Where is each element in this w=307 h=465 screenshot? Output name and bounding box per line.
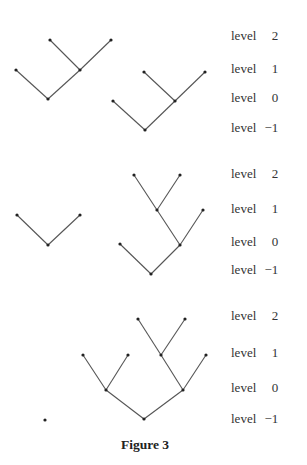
level-label: level1 [231,201,278,217]
tree-1-0 [15,213,81,246]
tree-edge [16,70,48,99]
tree-edge [17,215,48,245]
tree-node [132,173,135,176]
tree-node [142,417,145,420]
level-value: 2 [256,28,278,44]
level-word: level [231,61,256,76]
tree-edge [48,70,80,99]
level-value: 1 [256,201,278,217]
tree-0-1 [111,70,206,131]
tree-node [15,213,18,216]
tree-node [126,353,129,356]
tree-edge [83,355,106,390]
tree-node [204,353,207,356]
tree-edge [175,72,205,101]
tree-edge [180,210,203,245]
level-value: −1 [256,120,278,136]
level-word: level [231,234,256,249]
level-label: level−1 [231,262,278,278]
tree-node [118,242,121,245]
level-label: level2 [231,166,278,182]
level-value: −1 [256,262,278,278]
tree-edge [145,101,175,130]
level-word: level [231,380,256,395]
tree-edge [106,355,128,390]
tree-node [136,317,139,320]
tree-edge [134,175,157,210]
level-value: 1 [256,61,278,77]
level-word: level [231,201,256,216]
level-word: level [231,28,256,43]
level-value: 2 [256,308,278,324]
level-value: 2 [256,166,278,182]
tree-edge [161,355,183,390]
level-label: level1 [231,345,278,361]
tree-edge [120,244,151,274]
level-word: level [231,120,256,135]
level-label: level1 [231,61,278,77]
tree-node [201,208,204,211]
level-value: 1 [256,345,278,361]
tree-node [143,128,146,131]
tree-node [109,38,112,41]
level-label: level2 [231,28,278,44]
tree-edge [50,40,80,70]
tree-node [46,243,49,246]
level-word: level [231,308,256,323]
tree-node [155,208,158,211]
tree-edge [144,390,183,419]
tree-2-1 [81,317,207,420]
tree-node [142,70,145,73]
level-word: level [231,345,256,360]
tree-edge [183,355,206,390]
level-word: level [231,262,256,277]
tree-edge [106,390,144,419]
tree-edge [80,40,111,70]
tree-node [181,388,184,391]
level-label: level0 [231,90,278,106]
level-word: level [231,90,256,105]
level-value: 0 [256,234,278,250]
tree-node [78,213,81,216]
level-label: level−1 [231,411,278,427]
level-word: level [231,411,256,426]
tree-node [149,272,152,275]
tree-node [81,353,84,356]
level-value: −1 [256,411,278,427]
tree-node [46,97,49,100]
level-label: level−1 [231,120,278,136]
tree-node [173,99,176,102]
tree-edge [157,175,180,210]
tree-node [203,70,206,73]
tree-node [48,38,51,41]
level-label: level0 [231,234,278,250]
tree-node [111,99,114,102]
level-value: 0 [256,90,278,106]
tree-node [159,353,162,356]
tree-edge [157,210,180,245]
level-label: level2 [231,308,278,324]
tree-node [14,68,17,71]
tree-edge [161,319,185,355]
tree-edge [138,319,161,355]
tree-node [78,68,81,71]
tree-edge [113,101,145,130]
tree-edge [144,72,175,101]
level-value: 0 [256,380,278,396]
tree-node [104,388,107,391]
tree-1-1 [118,173,204,275]
level-word: level [231,166,256,181]
tree-node [183,317,186,320]
tree-node [178,173,181,176]
tree-2-0 [43,418,46,421]
tree-node [43,418,46,421]
tree-edge [151,245,180,274]
level-label: level0 [231,380,278,396]
tree-node [178,243,181,246]
tree-0-0 [14,38,112,100]
tree-edge [48,215,80,245]
figure-caption: Figure 3 [0,437,290,453]
